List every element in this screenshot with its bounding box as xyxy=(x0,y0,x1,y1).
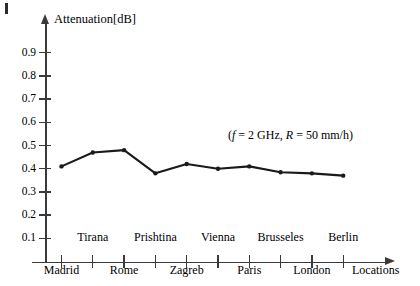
data-point-berlin xyxy=(341,173,345,177)
data-point-prishtina xyxy=(153,171,157,175)
data-point-paris xyxy=(247,164,251,168)
data-point-rome xyxy=(122,148,126,152)
data-point-zagreb xyxy=(185,162,189,166)
data-point-brusseles xyxy=(278,170,282,174)
attenuation-series-line xyxy=(62,150,344,176)
chart-figure: Attenuation[dB] 0.10.20.30.40.50.60.70.8… xyxy=(0,0,420,286)
data-point-tirana xyxy=(91,150,95,154)
data-point-madrid xyxy=(59,164,63,168)
data-point-london xyxy=(310,171,314,175)
series-plot xyxy=(0,0,420,286)
data-point-vienna xyxy=(216,167,220,171)
